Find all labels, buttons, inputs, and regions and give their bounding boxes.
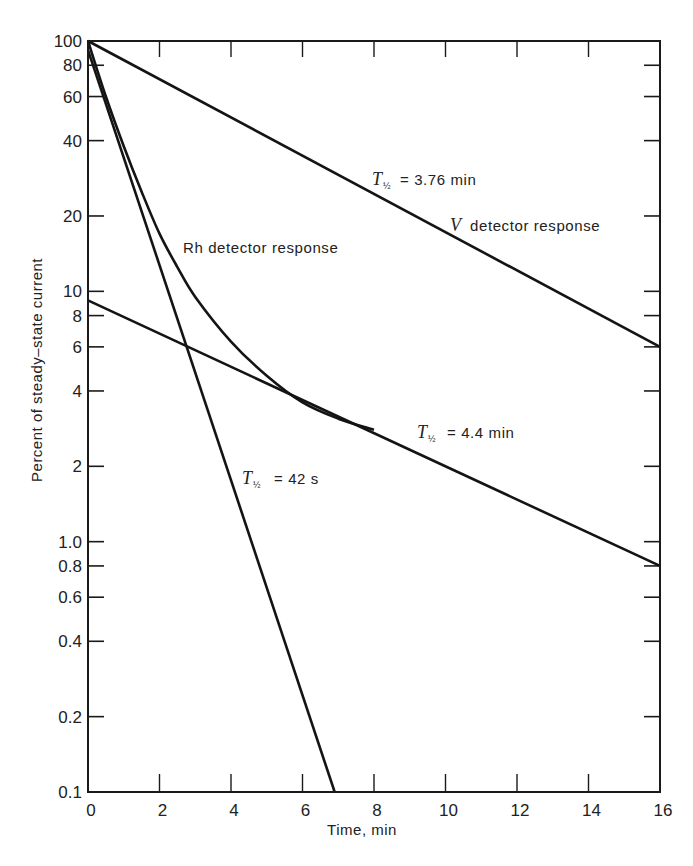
svg-text:= 3.76 min: = 3.76 min <box>400 171 476 188</box>
svg-text:½: ½ <box>383 181 391 191</box>
x-tick-label: 0 <box>86 801 95 820</box>
y-tick-label: 0.2 <box>58 708 82 727</box>
y-tick-label: 40 <box>63 132 82 151</box>
y-tick-label: 2 <box>73 457 82 476</box>
y-tick-label: 10 <box>63 282 82 301</box>
y-tick-label: 100 <box>54 32 82 51</box>
decay-chart: 100806040201086421.00.80.60.40.20.102468… <box>0 0 693 866</box>
y-tick-label: 20 <box>63 207 82 226</box>
svg-text:= 42 s: = 42 s <box>274 470 319 487</box>
x-tick-label: 12 <box>511 801 530 820</box>
y-tick-label: 0.8 <box>58 557 82 576</box>
svg-text:V: V <box>450 215 463 235</box>
svg-text:= 4.4 min: = 4.4 min <box>447 424 515 441</box>
plot-frame <box>88 41 660 792</box>
y-tick-label: 0.6 <box>58 588 82 607</box>
series-line-slow-component <box>88 300 660 566</box>
y-tick-label: 0.1 <box>58 783 82 802</box>
series-line-fast-component <box>88 50 335 792</box>
x-tick-label: 14 <box>582 801 601 820</box>
annotation-v-detector: V detector response <box>450 215 600 235</box>
svg-text:detector response: detector response <box>470 217 600 234</box>
series-line-v-detector-response <box>88 41 660 347</box>
y-tick-label: 4 <box>73 382 82 401</box>
annotation-v-halflife: T ½ = 3.76 min <box>372 169 476 191</box>
x-tick-label: 2 <box>158 801 167 820</box>
annotation-slow-halflife: T ½ = 4.4 min <box>417 422 515 444</box>
svg-text:½: ½ <box>428 434 436 444</box>
annotation-fast-halflife: T ½ = 42 s <box>242 468 319 490</box>
series-line-rh-detector-response <box>88 41 374 430</box>
series-lines <box>88 41 660 792</box>
y-axis-title: Percent of steady–state current <box>28 258 45 482</box>
y-tick-label: 0.4 <box>58 632 82 651</box>
x-tick-label: 8 <box>372 801 381 820</box>
y-tick-label: 80 <box>63 56 82 75</box>
y-tick-label: 8 <box>73 307 82 326</box>
x-tick-label: 16 <box>654 801 673 820</box>
x-tick-label: 4 <box>229 801 238 820</box>
x-tick-label: 10 <box>439 801 458 820</box>
svg-text:½: ½ <box>253 480 261 490</box>
x-tick-label: 6 <box>301 801 310 820</box>
annotation-rh-detector: Rh detector response <box>183 239 338 256</box>
y-tick-label: 60 <box>63 88 82 107</box>
y-tick-label: 6 <box>73 338 82 357</box>
x-axis-title: Time, min <box>327 821 397 838</box>
y-tick-label: 1.0 <box>58 533 82 552</box>
